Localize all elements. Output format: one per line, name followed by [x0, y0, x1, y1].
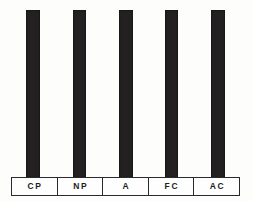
category-label: FC [163, 182, 179, 191]
category-label: CP [26, 182, 43, 191]
label-cell-np: NP [58, 178, 104, 195]
egogram-bar-chart: CP NP A FC AC [0, 0, 253, 201]
plot-area [0, 0, 253, 178]
category-label-row: CP NP A FC AC [11, 177, 240, 196]
bar-fc [165, 10, 178, 178]
bar-a [119, 10, 133, 178]
label-cell-cp: CP [12, 178, 58, 195]
category-label: A [121, 182, 130, 191]
label-cell-a: A [103, 178, 149, 195]
category-label: NP [72, 182, 89, 191]
label-cell-fc: FC [149, 178, 195, 195]
bar-np [73, 10, 86, 178]
bar-ac [211, 10, 225, 178]
bar-cp [26, 10, 40, 178]
label-cell-ac: AC [194, 178, 239, 195]
category-label: AC [208, 182, 225, 191]
